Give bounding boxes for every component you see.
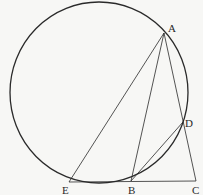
- circle: [10, 2, 188, 183]
- point-label-a: A: [168, 22, 176, 34]
- point-label-c: C: [192, 184, 199, 195]
- segment-EC: [69, 181, 196, 182]
- point-label-b: B: [128, 184, 135, 195]
- segment-BD: [131, 122, 183, 181]
- point-label-e: E: [62, 184, 69, 195]
- point-label-d: D: [185, 117, 193, 129]
- geometry-diagram: A D E B C: [0, 0, 203, 195]
- diagram-svg: A D E B C: [0, 0, 203, 195]
